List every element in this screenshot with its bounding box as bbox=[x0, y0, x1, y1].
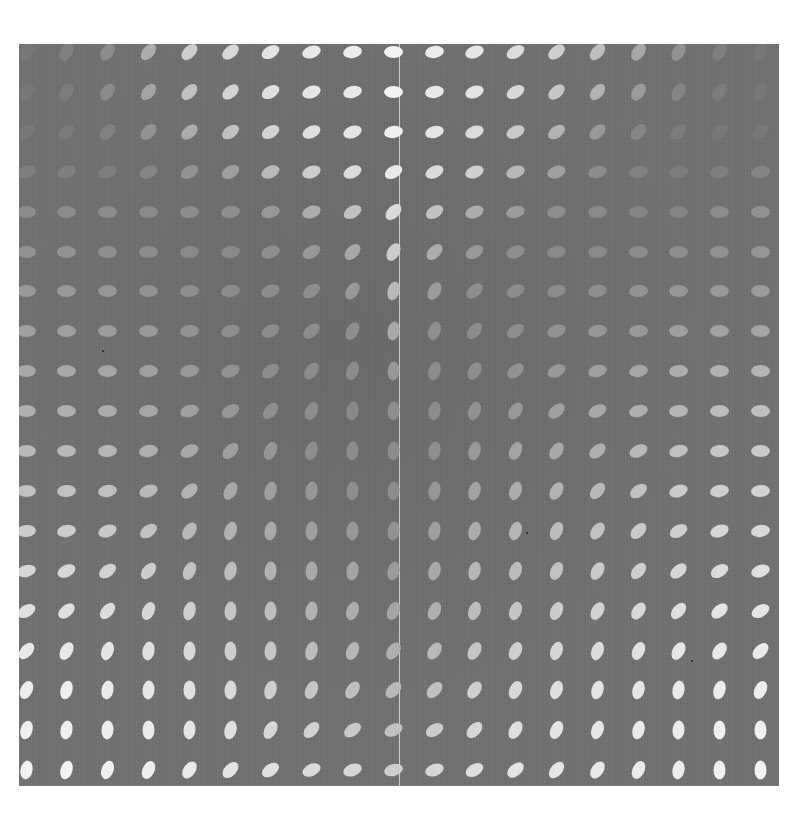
ellipse-mark bbox=[98, 325, 117, 337]
ellipse-mark bbox=[220, 244, 241, 259]
ellipse-mark bbox=[342, 84, 363, 101]
ellipse-mark bbox=[57, 445, 76, 457]
ellipse-mark bbox=[506, 440, 525, 462]
ellipse-mark bbox=[423, 241, 445, 263]
ellipse-mark bbox=[630, 720, 647, 741]
ellipse-mark bbox=[467, 440, 484, 461]
ellipse-mark bbox=[587, 205, 607, 219]
ellipse-mark bbox=[341, 123, 363, 141]
ellipse-mark bbox=[264, 601, 278, 621]
center-seam-line bbox=[399, 44, 400, 786]
ellipse-mark bbox=[98, 206, 117, 218]
ellipse-mark bbox=[425, 320, 443, 342]
ellipse-mark bbox=[101, 720, 115, 740]
ellipse-mark bbox=[341, 202, 363, 222]
ellipse-mark bbox=[464, 320, 485, 342]
ellipse-mark bbox=[627, 481, 649, 502]
ellipse-mark bbox=[138, 560, 159, 582]
dust-speck bbox=[102, 350, 104, 352]
ellipse-mark bbox=[714, 721, 726, 740]
dust-speck bbox=[691, 660, 693, 662]
ellipse-mark bbox=[386, 401, 400, 421]
ellipse-mark bbox=[464, 760, 486, 780]
ellipse-mark bbox=[750, 81, 770, 103]
ellipse-mark bbox=[345, 401, 360, 422]
ellipse-mark bbox=[669, 325, 688, 337]
ellipse-mark bbox=[546, 759, 567, 781]
ellipse-mark bbox=[708, 600, 730, 621]
ellipse-mark bbox=[97, 483, 118, 498]
ellipse-mark bbox=[545, 362, 567, 381]
ellipse-mark bbox=[464, 242, 486, 262]
ellipse-mark bbox=[504, 360, 526, 381]
ellipse-mark bbox=[19, 163, 37, 181]
ellipse-mark bbox=[627, 560, 648, 582]
ellipse-mark bbox=[423, 124, 444, 141]
ellipse-mark bbox=[714, 761, 726, 780]
ellipse-mark bbox=[426, 441, 441, 462]
ellipse-mark bbox=[19, 639, 37, 661]
ellipse-mark bbox=[302, 400, 321, 422]
ellipse-mark bbox=[179, 324, 199, 338]
ellipse-mark bbox=[19, 720, 34, 741]
ellipse-mark bbox=[709, 164, 730, 179]
ellipse-mark bbox=[545, 322, 567, 340]
ellipse-mark bbox=[138, 443, 159, 458]
ellipse-mark bbox=[751, 206, 770, 218]
ellipse-mark bbox=[302, 679, 321, 701]
ellipse-mark bbox=[749, 640, 771, 662]
ellipse-mark bbox=[386, 441, 400, 461]
ellipse-mark bbox=[304, 480, 319, 501]
ellipse-mark bbox=[300, 321, 322, 342]
ellipse-mark bbox=[464, 719, 486, 741]
ellipse-mark bbox=[587, 599, 607, 621]
ellipse-mark bbox=[97, 522, 119, 540]
ellipse-mark bbox=[183, 681, 195, 700]
ellipse-mark bbox=[545, 121, 567, 142]
ellipse-mark bbox=[504, 122, 526, 141]
ellipse-mark bbox=[586, 163, 607, 180]
ellipse-mark bbox=[671, 680, 686, 701]
ellipse-mark bbox=[57, 639, 77, 661]
ellipse-mark bbox=[382, 201, 404, 223]
ellipse-mark bbox=[56, 600, 78, 621]
ellipse-mark bbox=[711, 680, 728, 701]
ellipse-mark bbox=[98, 365, 117, 377]
ellipse-mark bbox=[346, 441, 360, 461]
ellipse-mark bbox=[19, 562, 37, 579]
ellipse-mark bbox=[342, 44, 363, 59]
ellipse-mark bbox=[344, 360, 362, 382]
ellipse-mark bbox=[751, 405, 770, 417]
ellipse-mark bbox=[464, 679, 485, 701]
ellipse-mark bbox=[303, 640, 320, 661]
ellipse-mark bbox=[57, 81, 77, 103]
ellipse-mark bbox=[629, 206, 648, 218]
ellipse-mark bbox=[263, 480, 280, 501]
ellipse-mark bbox=[19, 325, 36, 337]
ellipse-mark bbox=[672, 720, 686, 740]
ellipse-mark bbox=[384, 46, 403, 58]
ellipse-mark bbox=[708, 561, 730, 581]
ellipse-mark bbox=[709, 522, 731, 540]
ellipse-mark bbox=[19, 601, 37, 621]
ellipse-mark bbox=[59, 759, 76, 780]
ellipse-mark bbox=[138, 404, 158, 418]
ellipse-mark bbox=[547, 560, 566, 582]
ellipse-mark bbox=[424, 84, 445, 99]
ellipse-mark bbox=[423, 761, 445, 779]
ellipse-mark bbox=[628, 324, 648, 338]
ellipse-mark bbox=[139, 285, 158, 297]
ellipse-mark bbox=[507, 560, 525, 582]
ellipse-mark bbox=[751, 325, 770, 337]
ellipse-mark bbox=[182, 641, 196, 661]
ellipse-mark bbox=[668, 164, 689, 179]
ellipse-mark bbox=[383, 124, 404, 139]
ellipse-mark bbox=[301, 83, 323, 101]
ellipse-mark bbox=[425, 599, 444, 621]
ellipse-mark bbox=[219, 44, 241, 63]
ellipse-mark bbox=[100, 680, 115, 701]
ellipse-mark bbox=[220, 480, 240, 502]
ellipse-mark bbox=[545, 400, 567, 421]
ellipse-mark bbox=[586, 363, 607, 380]
ellipse-mark bbox=[710, 44, 730, 63]
